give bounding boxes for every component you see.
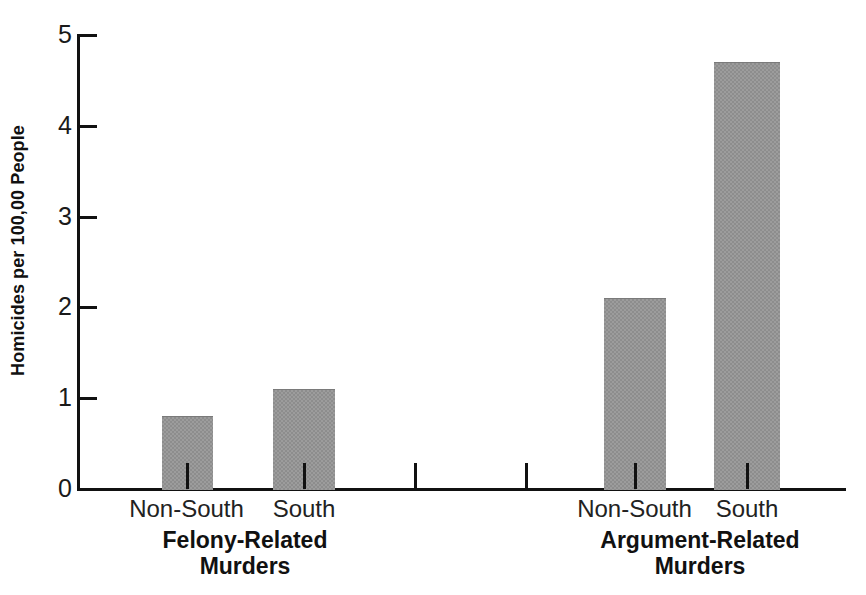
y-axis-title: Homicides per 100,00 People xyxy=(0,0,36,500)
group-label-argument-line1: Argument-Related xyxy=(600,527,799,553)
y-tick-label-0: 0 xyxy=(34,475,72,501)
y-tick-label-1: 1 xyxy=(34,384,72,410)
y-tick-label-0-text: 0 xyxy=(58,476,72,501)
group-label-argument: Argument-Related Murders xyxy=(560,527,840,580)
bar-argument-non-south[interactable] xyxy=(604,298,666,490)
group-label-argument-line2: Murders xyxy=(560,553,840,579)
y-tick-mark-3 xyxy=(80,216,97,219)
group-label-felony: Felony-Related Murders xyxy=(120,527,370,580)
bar-argument-south[interactable] xyxy=(714,62,780,490)
y-tick-label-5-text: 5 xyxy=(58,22,72,47)
group-label-felony-line2: Murders xyxy=(120,553,370,579)
x-tick-mark-argument-non-south xyxy=(634,463,637,489)
category-label-felony-non-south: Non-South xyxy=(110,496,263,521)
y-tick-mark-2 xyxy=(80,306,97,309)
category-label-argument-non-south: Non-South xyxy=(558,496,711,521)
x-tick-mark-argument-group-start xyxy=(525,463,528,489)
y-tick-mark-4 xyxy=(80,125,97,128)
x-tick-mark-felony-group-end xyxy=(414,463,417,489)
y-axis-line xyxy=(77,34,80,491)
y-tick-label-2-text: 2 xyxy=(58,294,72,319)
x-tick-mark-felony-non-south xyxy=(186,463,189,489)
x-tick-mark-argument-south xyxy=(746,463,749,489)
x-tick-mark-felony-south xyxy=(303,463,306,489)
y-tick-label-1-text: 1 xyxy=(58,385,72,410)
bar-chart: Homicides per 100,00 People 5 4 3 2 1 0 … xyxy=(0,0,866,595)
y-tick-label-5: 5 xyxy=(34,21,72,47)
y-axis-title-text: Homicides per 100,00 People xyxy=(8,125,29,376)
y-tick-label-2: 2 xyxy=(34,293,72,319)
category-label-argument-south: South xyxy=(693,496,801,521)
y-tick-label-4-text: 4 xyxy=(58,113,72,138)
y-tick-label-4: 4 xyxy=(34,112,72,138)
y-tick-label-3: 3 xyxy=(34,203,72,229)
y-tick-mark-1 xyxy=(80,397,97,400)
group-label-felony-line1: Felony-Related xyxy=(163,527,328,553)
y-tick-label-3-text: 3 xyxy=(58,204,72,229)
y-tick-mark-5 xyxy=(80,34,97,37)
category-label-felony-south: South xyxy=(250,496,358,521)
